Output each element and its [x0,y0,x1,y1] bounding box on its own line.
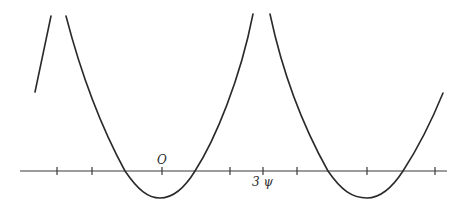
curve-left-branch [35,16,51,92]
origin-label: O [157,154,167,166]
diagram-canvas [0,0,461,211]
period-label-3psi: 3 ψ [252,176,273,188]
